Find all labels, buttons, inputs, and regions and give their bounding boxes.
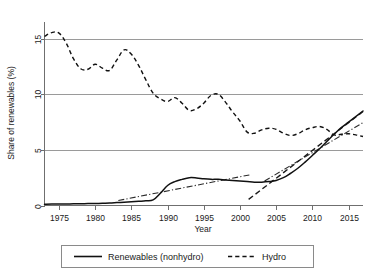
y-axis-title: Share of renewables (%) bbox=[6, 66, 16, 160]
x-tick-label-2000: 2000 bbox=[231, 213, 250, 223]
legend-label-renewables: Renewables (nonhydro) bbox=[108, 252, 204, 262]
x-axis-title: Year bbox=[194, 224, 211, 234]
x-tick-label-1985: 1985 bbox=[122, 213, 141, 223]
legend-label-hydro: Hydro bbox=[262, 252, 286, 262]
y-tick-label-10: 10 bbox=[33, 90, 43, 100]
x-tick-label-2010: 2010 bbox=[303, 213, 322, 223]
chart-background bbox=[0, 0, 375, 275]
x-tick-label-1975: 1975 bbox=[50, 213, 69, 223]
x-tick-label-1995: 1995 bbox=[195, 213, 214, 223]
x-tick-label-2005: 2005 bbox=[267, 213, 286, 223]
chart-figure: 051015 197519801985199019952000200520102… bbox=[0, 0, 375, 275]
y-tick-label-0: 0 bbox=[33, 204, 43, 209]
x-tick-label-2015: 2015 bbox=[340, 213, 359, 223]
x-tick-label-1980: 1980 bbox=[86, 213, 105, 223]
chart-svg: 051015 197519801985199019952000200520102… bbox=[0, 0, 375, 275]
y-tick-label-5: 5 bbox=[33, 148, 43, 153]
y-tick-label-15: 15 bbox=[33, 35, 43, 45]
x-tick-label-1990: 1990 bbox=[159, 213, 178, 223]
